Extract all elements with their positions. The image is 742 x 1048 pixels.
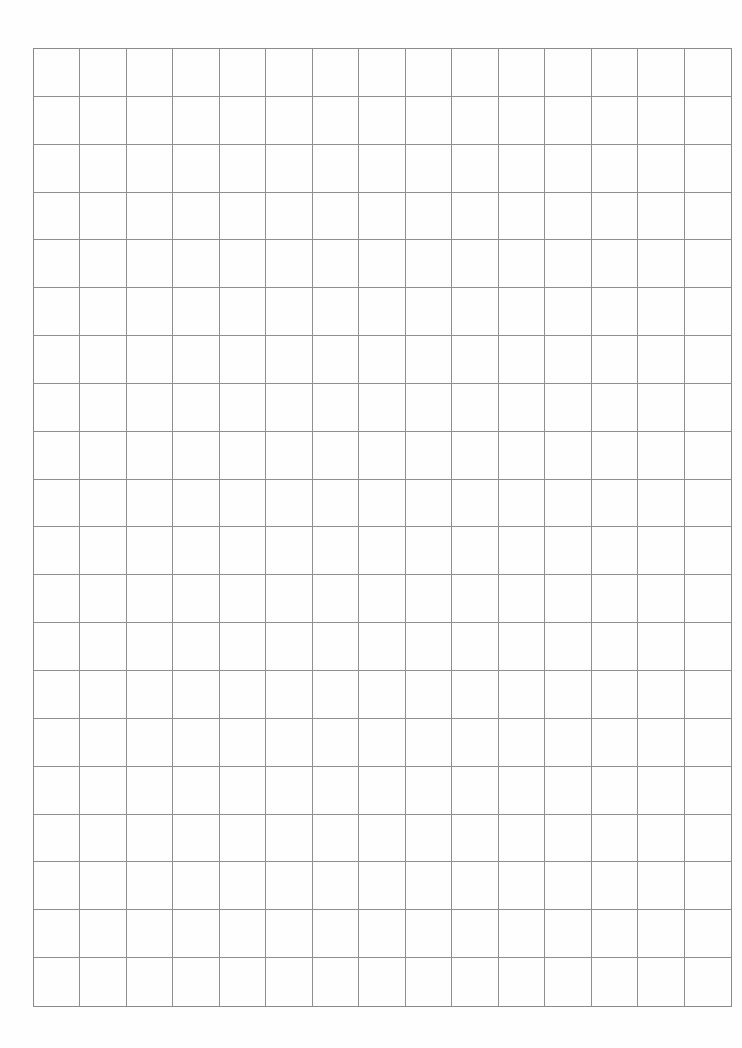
grid-cell <box>80 862 126 910</box>
grid-cell <box>499 288 545 336</box>
grid-cell <box>266 336 312 384</box>
grid-cell <box>499 193 545 241</box>
grid-cell <box>359 575 405 623</box>
grid-cell <box>545 288 591 336</box>
grid-cell <box>313 671 359 719</box>
grid-cell <box>638 623 684 671</box>
grid-cell <box>452 97 498 145</box>
grid-cell <box>359 671 405 719</box>
grid-cell <box>406 719 452 767</box>
grid-cell <box>127 671 173 719</box>
grid-cell <box>34 480 80 528</box>
grid-cell <box>313 384 359 432</box>
grid-cell <box>592 575 638 623</box>
grid-cell <box>127 288 173 336</box>
grid-cell <box>359 480 405 528</box>
grid-cell <box>545 384 591 432</box>
grid-cell <box>266 623 312 671</box>
grid-cell <box>592 815 638 863</box>
grid-cell <box>452 49 498 97</box>
grid-cell <box>266 193 312 241</box>
grid-cell <box>220 480 266 528</box>
grid-cell <box>638 575 684 623</box>
grid-cell <box>313 480 359 528</box>
grid-cell <box>685 240 731 288</box>
grid-cell <box>499 384 545 432</box>
grid-cell <box>266 719 312 767</box>
grid-cell <box>406 527 452 575</box>
grid-cell <box>359 384 405 432</box>
grid-cell <box>545 97 591 145</box>
grid-cell <box>34 193 80 241</box>
grid-cell <box>313 49 359 97</box>
grid-cell <box>127 384 173 432</box>
graph-paper-page <box>0 0 742 1048</box>
grid-cell <box>359 336 405 384</box>
grid-cell <box>359 910 405 958</box>
grid-cell <box>638 480 684 528</box>
grid-cell <box>638 958 684 1006</box>
grid-cell <box>592 384 638 432</box>
grid-cell <box>638 97 684 145</box>
grid-cell <box>173 97 219 145</box>
grid-cell <box>220 862 266 910</box>
grid-cell <box>127 49 173 97</box>
grid-cell <box>127 719 173 767</box>
grid-cell <box>685 193 731 241</box>
grid-cell <box>452 767 498 815</box>
grid-cell <box>406 575 452 623</box>
grid-cell <box>406 767 452 815</box>
grid-cell <box>638 432 684 480</box>
grid-cell <box>638 671 684 719</box>
grid-cell <box>34 719 80 767</box>
grid-cell <box>592 958 638 1006</box>
grid-cell <box>220 623 266 671</box>
grid-cell <box>545 767 591 815</box>
grid-cell <box>80 575 126 623</box>
grid-cell <box>638 767 684 815</box>
grid-cell <box>499 240 545 288</box>
grid-cell <box>127 432 173 480</box>
grid-cell <box>266 384 312 432</box>
grid-cell <box>592 97 638 145</box>
grid-cell <box>638 384 684 432</box>
grid-cell <box>685 288 731 336</box>
grid-cell <box>313 97 359 145</box>
grid-cell <box>34 527 80 575</box>
grid-cell <box>359 527 405 575</box>
grid-cell <box>499 527 545 575</box>
grid-cell <box>406 432 452 480</box>
grid-cell <box>266 145 312 193</box>
grid-cell <box>452 432 498 480</box>
grid-cell <box>266 815 312 863</box>
grid-cell <box>127 145 173 193</box>
grid-cell <box>452 240 498 288</box>
grid-cell <box>266 910 312 958</box>
grid-cell <box>220 432 266 480</box>
grid-cell <box>545 910 591 958</box>
grid-cell <box>359 145 405 193</box>
grid-cell <box>266 432 312 480</box>
grid-cell <box>127 623 173 671</box>
grid-cell <box>545 240 591 288</box>
grid-cell <box>266 671 312 719</box>
grid-cell <box>499 719 545 767</box>
grid-cell <box>313 432 359 480</box>
grid-cell <box>173 958 219 1006</box>
grid-cell <box>34 97 80 145</box>
grid-cell <box>685 719 731 767</box>
grid-cell <box>545 480 591 528</box>
grid-cell <box>499 480 545 528</box>
grid-cell <box>499 862 545 910</box>
grid-cell <box>592 862 638 910</box>
grid-cell <box>406 815 452 863</box>
grid-cell <box>34 862 80 910</box>
grid-cell <box>173 767 219 815</box>
grid-cell <box>452 336 498 384</box>
grid-cell <box>359 815 405 863</box>
grid-cell <box>545 719 591 767</box>
grid-cell <box>220 767 266 815</box>
grid-cell <box>80 336 126 384</box>
grid-cell <box>638 336 684 384</box>
grid-cell <box>266 958 312 1006</box>
